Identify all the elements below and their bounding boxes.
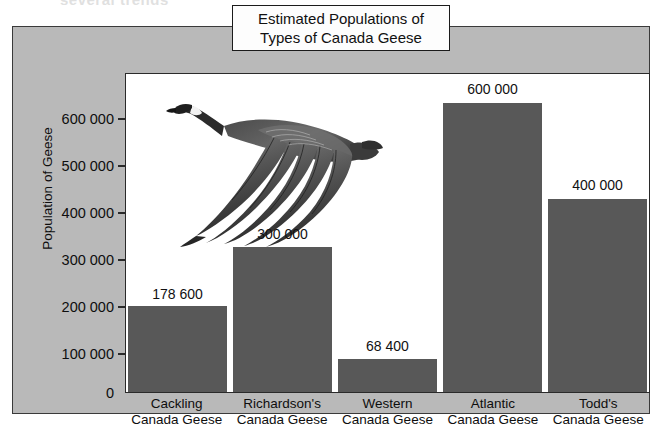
y-tick-0: 0 [106, 385, 125, 401]
y-tick-label: 200 000 [62, 299, 118, 315]
x-category-western: Western Canada Geese [338, 396, 438, 424]
y-tick-label: 400 000 [62, 205, 118, 221]
y-tick-label: 600 000 [62, 111, 118, 127]
chart-title-box: Estimated Populations of Types of Canada… [232, 5, 450, 51]
chart-title-line2: Types of Canada Geese [260, 28, 422, 47]
y-tick-label: 0 [106, 385, 118, 401]
x-category-line1: Cackling [127, 396, 227, 412]
y-tick-500000: 500 000 [62, 158, 125, 174]
y-tick-100000: 100 000 [62, 346, 125, 362]
x-category-todds: Todd's Canada Geese [549, 396, 649, 424]
y-tick-mark-icon [118, 212, 125, 214]
x-category-atlantic: Atlantic Canada Geese [443, 396, 543, 424]
bar-slot-atlantic: 600 000 [443, 74, 542, 392]
bar-atlantic[interactable] [443, 103, 542, 392]
y-tick-mark-icon [118, 306, 125, 308]
bar-todds[interactable] [548, 199, 647, 392]
y-tick-mark-icon [118, 118, 125, 120]
y-tick-mark-icon [118, 259, 125, 261]
x-category-line2: Canada Geese [232, 412, 332, 424]
bar-slot-western: 68 400 [338, 74, 437, 392]
x-category-line2: Canada Geese [443, 412, 543, 424]
chart-figure-frame: Population of Geese 600 000 500 000 400 … [12, 26, 650, 414]
y-tick-200000: 200 000 [62, 299, 125, 315]
bar-western[interactable] [338, 359, 437, 392]
x-category-line1: Western [338, 396, 438, 412]
x-category-richardsons: Richardson's Canada Geese [232, 396, 332, 424]
bar-slot-todds: 400 000 [548, 74, 647, 392]
y-tick-400000: 400 000 [62, 205, 125, 221]
bar-value-label: 178 600 [152, 286, 203, 302]
y-axis: Population of Geese 600 000 500 000 400 … [25, 73, 125, 395]
bar-cackling[interactable] [128, 306, 227, 392]
y-tick-600000: 600 000 [62, 111, 125, 127]
x-category-line2: Canada Geese [549, 412, 649, 424]
x-category-cackling: Cackling Canada Geese [127, 396, 227, 424]
bar-richardsons[interactable] [233, 247, 332, 392]
x-category-line1: Richardson's [232, 396, 332, 412]
y-axis-title: Population of Geese [40, 119, 55, 259]
plot-area: 178 600 300 000 68 400 600 000 400 000 [125, 73, 650, 393]
bar-slot-richardsons: 300 000 [233, 74, 332, 392]
y-tick-mark-icon [118, 392, 125, 394]
x-category-line2: Canada Geese [127, 412, 227, 424]
y-tick-300000: 300 000 [62, 252, 125, 268]
bar-slot-cackling: 178 600 [128, 74, 227, 392]
y-tick-mark-icon [118, 165, 125, 167]
x-category-line2: Canada Geese [338, 412, 438, 424]
bar-value-label: 600 000 [467, 81, 518, 97]
y-tick-mark-icon [118, 353, 125, 355]
x-category-line1: Atlantic [443, 396, 543, 412]
bar-value-label: 300 000 [257, 226, 308, 242]
y-tick-label: 500 000 [62, 158, 118, 174]
x-category-line1: Todd's [549, 396, 649, 412]
bar-value-label: 400 000 [572, 177, 623, 193]
bar-value-label: 68 400 [366, 338, 409, 354]
x-axis-labels: Cackling Canada Geese Richardson's Canad… [125, 396, 650, 424]
y-tick-label: 300 000 [62, 252, 118, 268]
y-tick-label: 100 000 [62, 346, 118, 362]
bars-row: 178 600 300 000 68 400 600 000 400 000 [126, 74, 649, 392]
chart-title-line1: Estimated Populations of [258, 9, 424, 28]
